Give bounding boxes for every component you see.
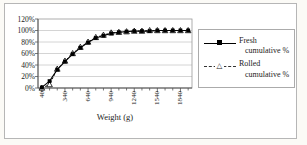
fresh-data-point: [78, 46, 82, 50]
y-axis-tick-label: 0%: [7, 84, 35, 93]
fresh-series-line: [42, 31, 188, 88]
x-axis-title: Weight (g): [38, 112, 192, 122]
x-axis-tick-label: 40: [38, 91, 46, 113]
fresh-data-point: [48, 79, 52, 83]
fresh-data-point: [132, 29, 136, 33]
x-axis-tick-label: 340: [61, 91, 69, 113]
x-axis-tick-label: 1240: [130, 91, 138, 113]
fresh-data-point: [71, 52, 75, 56]
fresh-series-marker-icon: [204, 39, 236, 48]
fresh-data-point: [140, 29, 144, 33]
fresh-data-point: [86, 41, 90, 45]
fresh-data-point: [102, 34, 106, 38]
chart-frame: 120%100%80%60%40%20%0% 40340640940124015…: [4, 3, 297, 139]
chart-image: { "chart_data": { "type": "line", "title…: [0, 0, 307, 145]
y-axis-tick-label: 40%: [7, 61, 35, 70]
rolled-series-line: [42, 31, 188, 89]
fresh-data-point: [186, 29, 190, 33]
legend-label-rolled: Rolled cumulative %: [239, 59, 290, 79]
rolled-series-marker-icon: △: [204, 62, 236, 71]
x-axis-tick-label: 1840: [176, 91, 184, 113]
fresh-data-point: [40, 86, 44, 90]
y-axis-tick-label: 120%: [7, 15, 35, 24]
x-axis-tick-label: 1540: [153, 91, 161, 113]
y-axis-tick-label: 60%: [7, 49, 35, 58]
fresh-data-point: [163, 29, 167, 33]
fresh-data-point: [94, 36, 98, 40]
filled-square-icon: [217, 40, 222, 45]
fresh-data-point: [148, 29, 152, 33]
fresh-data-point: [55, 68, 59, 72]
legend-box: Fresh cumulative % △ Rolled cumulative %: [198, 29, 295, 88]
fresh-data-point: [63, 60, 67, 64]
open-triangle-icon: △: [215, 61, 224, 70]
fresh-data-point: [179, 29, 183, 33]
x-axis-tick-label: 940: [107, 91, 115, 113]
y-axis-tick-label: 20%: [7, 72, 35, 81]
legend-label-fresh: Fresh cumulative %: [239, 36, 290, 56]
fresh-data-point: [155, 29, 159, 33]
fresh-data-point: [125, 30, 129, 34]
y-axis-tick-label: 80%: [7, 38, 35, 47]
legend-entry-rolled: △ Rolled cumulative %: [204, 59, 290, 79]
fresh-data-point: [109, 31, 113, 35]
fresh-data-point: [117, 30, 121, 34]
legend-entry-fresh: Fresh cumulative %: [204, 36, 290, 56]
fresh-data-point: [171, 29, 175, 33]
x-axis-tick-label: 640: [84, 91, 92, 113]
y-axis-tick-label: 100%: [7, 26, 35, 35]
plot-svg: [38, 19, 192, 88]
plot-area: [38, 19, 192, 88]
